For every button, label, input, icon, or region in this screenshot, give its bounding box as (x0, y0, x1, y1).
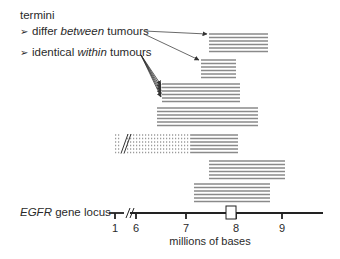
tick-label-8: 8 (233, 223, 239, 234)
amplicon-block-4 (157, 108, 258, 126)
tick-label-9: 9 (279, 223, 285, 234)
amplicon-block-3 (162, 84, 240, 102)
arrow-to-block-1 (144, 31, 207, 34)
tick-label-1: 1 (112, 223, 118, 234)
amplicon-diagram (0, 0, 340, 259)
gene-locus-axis (109, 206, 323, 219)
amplicon-block-1 (209, 34, 268, 52)
arrow-to-line-5 (141, 55, 161, 97)
gene-locus-label: EGFR gene locus (20, 207, 111, 219)
axis-break-icon (126, 208, 130, 218)
egfr-gene-box (226, 206, 236, 219)
arrow-to-block-2 (144, 34, 199, 60)
tick-label-6: 6 (133, 223, 139, 234)
amplicon-block-6 (209, 161, 285, 179)
amplicon-block-5 (115, 134, 238, 154)
tick-label-7: 7 (183, 223, 189, 234)
axis-unit-label: millions of bases (169, 236, 250, 247)
amplicon-block-2 (201, 60, 236, 78)
amplicon-block-7 (194, 184, 270, 202)
amplicon-blocks (115, 34, 285, 202)
